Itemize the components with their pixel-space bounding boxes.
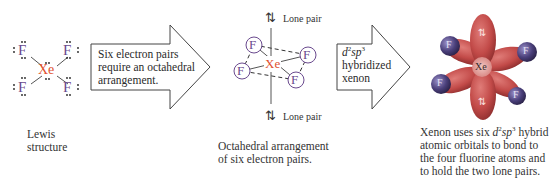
lewis-caption: Lewis structure xyxy=(27,128,67,154)
octa-fluorine-3: F xyxy=(237,63,244,79)
hybridization-label: d2sp3 xyxy=(342,46,391,59)
octahedral-arrangement: F F F F Xe ⇅ Lone pair ⇅ Lone pair Octah… xyxy=(210,0,340,185)
lewis-fluorine-top-left: F xyxy=(18,42,26,59)
lone-pair-arrows-icon-orbital-top: ⇅ xyxy=(478,27,486,38)
lewis-structure-drawing xyxy=(0,0,90,110)
orbital-fluorine-1: F xyxy=(446,39,452,50)
orbital-fluorine-4: F xyxy=(513,89,519,100)
lone-pair-arrows-icon-top: ⇅ xyxy=(265,10,276,25)
octa-fluorine-1: F xyxy=(249,37,256,53)
orbital-fluorine-3: F xyxy=(437,77,443,88)
orbital-xenon: Xe xyxy=(475,61,487,72)
orbital-fluorine-2: F xyxy=(523,45,529,56)
arrow2-text: d2sp3 hybridized xenon xyxy=(342,46,391,85)
octa-fluorine-2: F xyxy=(303,47,310,63)
octa-xenon: Xe xyxy=(264,56,281,72)
lewis-xenon: Xe xyxy=(38,62,54,78)
lewis-fluorine-top-right: F xyxy=(63,42,71,59)
arrow1-text: Six electron pairs require an octahedral… xyxy=(98,48,195,87)
orbital-caption: Xenon uses six d2sp3 hybrid atomic orbit… xyxy=(420,126,555,178)
lone-pair-label-bottom: Lone pair xyxy=(283,111,322,122)
lone-pair-label-top: Lone pair xyxy=(283,13,322,24)
lewis-structure: F F F F Xe Lewis structure xyxy=(0,0,90,185)
octahedral-caption: Octahedral arrangement of six electron p… xyxy=(218,140,329,166)
octa-fluorine-4: F xyxy=(291,72,298,88)
arrow-six-electron-pairs: Six electron pairs require an octahedral… xyxy=(88,22,218,112)
orbital-model: F F F F Xe ⇅ ⇅ Xenon uses six d2sp3 hybr… xyxy=(400,0,555,185)
lone-pair-arrows-icon-orbital-bottom: ⇅ xyxy=(478,96,486,107)
lewis-fluorine-bottom-right: F xyxy=(63,79,71,96)
lewis-fluorine-bottom-left: F xyxy=(18,79,26,96)
lone-pair-arrows-icon-bottom: ⇅ xyxy=(265,108,276,123)
